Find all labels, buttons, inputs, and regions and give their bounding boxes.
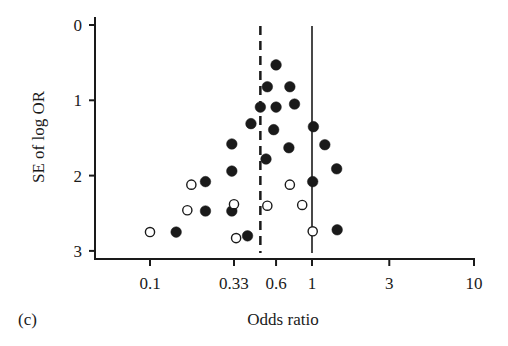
- filled-study-marker: [200, 176, 211, 187]
- x-tick-label: 10: [466, 274, 483, 293]
- y-tick-label: 2: [74, 167, 83, 186]
- filled-study-marker: [331, 164, 342, 175]
- y-ticks: 0123: [74, 16, 96, 261]
- filled-study-marker: [285, 81, 296, 92]
- filled-study-marker: [227, 139, 238, 150]
- funnel-plot: 0123 0.10.330.61310 SE of log OR Odds ra…: [0, 0, 508, 346]
- x-axis-title: Odds ratio: [247, 310, 318, 329]
- open-study-marker: [183, 206, 192, 215]
- filled-study-marker: [289, 99, 300, 110]
- x-tick-label: 0.1: [139, 274, 160, 293]
- open-study-marker: [285, 180, 294, 189]
- filled-study-marker: [171, 227, 182, 238]
- filled-study-marker: [200, 206, 211, 217]
- y-tick-label: 3: [74, 242, 83, 261]
- open-study-marker: [145, 227, 154, 236]
- x-tick-label: 0.6: [265, 274, 286, 293]
- panel-label: (c): [18, 310, 37, 329]
- y-tick-label: 0: [74, 16, 83, 35]
- filled-study-marker: [320, 139, 331, 150]
- filled-study-marker: [242, 231, 253, 242]
- y-tick-label: 1: [74, 91, 83, 110]
- x-tick-label: 3: [385, 274, 394, 293]
- filled-study-marker: [246, 118, 257, 129]
- x-tick-label: 0.33: [219, 274, 249, 293]
- x-tick-label: 1: [308, 274, 317, 293]
- open-study-marker: [263, 201, 272, 210]
- filled-study-marker: [227, 166, 238, 177]
- axes: [94, 17, 475, 260]
- filled-study-marker: [255, 102, 266, 113]
- open-study-marker: [187, 180, 196, 189]
- open-study-marker: [308, 227, 317, 236]
- open-study-marker: [298, 200, 307, 209]
- y-axis-title: SE of log OR: [29, 90, 48, 183]
- open-study-marker: [229, 200, 238, 209]
- x-ticks: 0.10.330.61310: [139, 259, 482, 293]
- filled-study-marker: [284, 142, 295, 153]
- filled-study-marker: [271, 60, 282, 71]
- filled-study-marker: [307, 176, 318, 187]
- filled-study-marker: [332, 225, 343, 236]
- data-points: [145, 60, 342, 243]
- reference-lines: [260, 26, 312, 253]
- filled-study-marker: [308, 121, 319, 132]
- filled-study-marker: [271, 102, 282, 113]
- filled-study-marker: [262, 81, 273, 92]
- filled-study-marker: [268, 124, 279, 135]
- open-study-marker: [231, 233, 240, 242]
- filled-study-marker: [261, 154, 272, 165]
